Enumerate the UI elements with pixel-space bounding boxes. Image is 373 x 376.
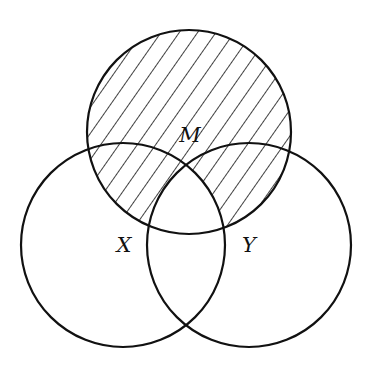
set-m-label: M xyxy=(179,125,201,146)
set-y-label: Y xyxy=(242,235,256,256)
venn-diagram xyxy=(0,0,373,376)
set-x-label: X xyxy=(117,235,132,256)
